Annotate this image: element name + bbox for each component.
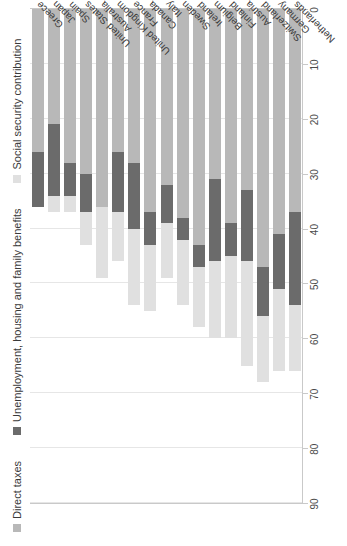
bar-segment [112,212,124,261]
legend-label: Direct taxes [11,461,23,519]
bar-segment [209,262,221,339]
x-tick-label: 70 [309,389,320,400]
bar-segment [257,9,269,267]
bar-row [96,9,108,503]
x-tick-50 [303,283,308,284]
bar-segment [48,9,60,124]
bar-segment [273,9,285,234]
bar-row [241,9,253,503]
x-tick-label: 90 [309,498,320,509]
legend-swatch-icon [13,427,21,435]
x-tick-90 [303,503,308,504]
bar-segment [177,218,189,240]
bar-segment [209,9,221,179]
bar-row [209,9,221,503]
bar-segment [48,124,60,195]
x-tick-label: 40 [309,224,320,235]
bar-row [80,9,92,503]
x-tick-label: 60 [309,334,320,345]
bar-segment [80,9,92,174]
bar-segment [144,212,156,245]
bar-segment [225,9,237,223]
bar-segment [289,212,301,305]
x-tick-40 [303,229,308,230]
bar-row [289,9,301,503]
bar-segment [241,190,253,261]
bar-segment [177,240,189,306]
x-tick-20 [303,119,308,120]
bar-segment [128,9,140,163]
bar-segment [257,316,269,382]
chart-legend: Direct taxesUnemployment, housing and fa… [6,39,28,532]
bar-segment [161,185,173,223]
x-tick-label: 10 [309,59,320,70]
bar-segment [161,9,173,185]
bar-segment [144,245,156,311]
x-tick-label: 50 [309,279,320,290]
bar-segment [64,196,76,212]
bar-row [112,9,124,503]
bar-segment [193,9,205,245]
legend-swatch-icon [13,524,21,532]
bar-segment [225,256,237,338]
bar-segment [161,223,173,278]
bar-segment [128,163,140,229]
x-tick-70 [303,393,308,394]
bar-segment [112,152,124,212]
bar-segment [273,234,285,289]
bar-segment [80,212,92,245]
bar-segment [289,305,301,371]
bar-row [193,9,205,503]
bar-row [257,9,269,503]
legend-item-0: Direct taxes [11,461,23,532]
bar-segment [112,9,124,152]
bar-segment [64,163,76,196]
bar-segment [209,179,221,261]
bar-segment [48,196,60,212]
bar-segment [241,9,253,190]
bar-row [225,9,237,503]
bar-segment [96,9,108,207]
bar-segment [257,267,269,316]
bar-segment [273,289,285,371]
legend-swatch-icon [13,175,21,183]
legend-label: Unemployment, housing and family benefit… [11,209,23,422]
bar-segment [80,174,92,212]
x-tick-label: 30 [309,169,320,180]
bar-segment [289,9,301,212]
bar-row [64,9,76,503]
x-tick-label: 80 [309,444,320,455]
rotated-figure-wrapper: Direct taxesUnemployment, housing and fa… [0,0,347,546]
bar-segment [128,229,140,306]
x-tick-label: 20 [309,114,320,125]
bar-segment [177,9,189,218]
x-tick-0 [303,9,308,10]
legend-label: Social security contribution [11,39,23,170]
bar-segment [225,223,237,256]
legend-item-2: Social security contribution [11,39,23,183]
bar-row [273,9,285,503]
bar-segment [241,262,253,366]
legend-item-1: Unemployment, housing and family benefit… [11,209,23,435]
bar-segment [96,207,108,278]
bar-row [161,9,173,503]
x-tick-10 [303,64,308,65]
bar-segment [32,9,44,152]
bar-row [177,9,189,503]
bar-row [128,9,140,503]
chart-figure: Direct taxesUnemployment, housing and fa… [0,0,347,546]
bar-row [48,9,60,503]
bar-row [32,9,44,503]
bar-segment [144,9,156,212]
bar-segment [193,267,205,327]
bar-row [144,9,156,503]
x-tick-30 [303,174,308,175]
x-tick-80 [303,448,308,449]
x-tick-60 [303,338,308,339]
x-axis-ticks: 0102030405060708090 [303,9,321,504]
bar-segment [64,9,76,163]
plot-area [30,9,303,504]
bars-container [30,9,303,503]
x-tick-label: 0 [309,7,320,13]
bar-segment [32,152,44,207]
